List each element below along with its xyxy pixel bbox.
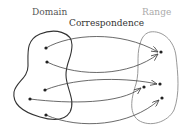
arrow-d2-r1 <box>47 54 158 72</box>
domain-set-outline <box>14 31 72 119</box>
correspondence-diagram <box>0 0 189 135</box>
mapping-arrows <box>30 37 159 124</box>
arrow-d5-r3 <box>46 100 159 124</box>
arrow-d4-r4 <box>30 88 141 102</box>
domain-points <box>28 46 48 116</box>
range-set-outline <box>132 32 178 124</box>
arrow-d1-r1 <box>46 37 158 53</box>
